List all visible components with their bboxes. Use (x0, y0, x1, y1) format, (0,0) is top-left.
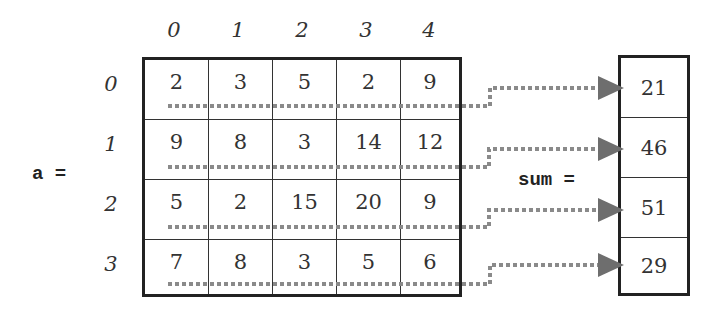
row-sum-connectors (0, 0, 716, 314)
arrowhead-icon (598, 76, 624, 100)
arrowhead-icon (598, 253, 624, 277)
connector-row-2 (168, 210, 598, 227)
arrowhead-icon (598, 137, 624, 161)
connector-row-3 (168, 265, 598, 284)
connector-row-0 (168, 88, 598, 106)
arrowhead-icon (598, 198, 624, 222)
connector-row-1 (168, 149, 598, 167)
